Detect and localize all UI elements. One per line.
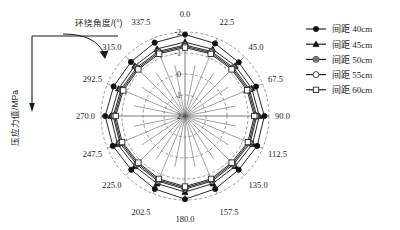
filled-circle-marker: [111, 84, 116, 89]
marker-shape: [313, 26, 318, 31]
open-square-marker: [229, 67, 234, 72]
marker-shape: [208, 176, 213, 181]
angle-tick-337.5: 337.5: [131, 17, 150, 27]
marker-shape: [236, 60, 241, 65]
radial-axis-title: 压应力值/MPa: [10, 90, 20, 146]
angle-axis-arrowhead: [100, 51, 109, 60]
marker-shape: [208, 51, 213, 56]
marker-shape: [213, 186, 218, 191]
marker-shape: [244, 88, 249, 93]
angle-tick-90.0: 90.0: [275, 111, 290, 121]
marker-shape: [103, 113, 108, 118]
open-square-marker: [182, 184, 187, 189]
marker-shape: [182, 32, 187, 37]
angle-tick-112.5: 112.5: [268, 149, 287, 159]
filled-circle-marker: [212, 41, 217, 46]
radial-tick-2: 2: [177, 112, 181, 121]
marker-shape: [121, 88, 126, 93]
filled-circle-marker: [152, 40, 157, 45]
angle-tick-22.5: 22.5: [219, 17, 234, 27]
filled-circle-marker: [103, 113, 108, 118]
legend-label-5: 间距 60cm: [332, 84, 372, 95]
open-square-marker: [208, 51, 213, 56]
angle-tick-225.0: 225.0: [102, 180, 121, 190]
legend-label-4: 间距 55cm: [332, 69, 372, 80]
marker-shape: [262, 113, 267, 118]
open-square-marker: [245, 139, 250, 144]
marker-shape: [212, 41, 217, 46]
filled-circle-marker: [313, 26, 318, 31]
marker-shape: [152, 186, 157, 191]
polar-chart-canvas: 0.022.545.067.590.0112.5135.0157.5180.02…: [0, 0, 400, 230]
open-square-marker: [252, 113, 257, 118]
open-square-marker: [313, 87, 318, 92]
marker-shape: [313, 87, 318, 92]
marker-shape: [128, 59, 133, 64]
open-square-marker: [229, 160, 234, 165]
radial-axis-arrow: [29, 103, 35, 112]
filled-circle-marker: [182, 197, 187, 202]
angle-axis-title: 环绕角度/(°): [75, 18, 123, 28]
marker-shape: [182, 184, 187, 189]
filled-circle-marker: [213, 186, 218, 191]
legend-label-3: 间距 50cm: [332, 54, 372, 65]
angle-tick-67.5: 67.5: [268, 74, 283, 84]
diamond-in-circle-marker: [313, 56, 319, 62]
radial-tick-neg1: -1: [174, 49, 181, 58]
polar-chart-figure: 0.022.545.067.590.0112.5135.0157.5180.02…: [0, 0, 400, 230]
angle-tick-270.0: 270.0: [76, 111, 95, 121]
open-square-marker: [136, 160, 141, 165]
open-square-marker: [157, 51, 162, 56]
angle-tick-202.5: 202.5: [131, 207, 150, 217]
angle-tick-0.0: 0.0: [180, 9, 191, 19]
angle-tick-292.5: 292.5: [83, 74, 102, 84]
radial-tick-0: 0: [177, 70, 181, 79]
marker-shape: [313, 72, 319, 78]
open-square-marker: [208, 176, 213, 181]
open-square-marker: [113, 113, 118, 118]
open-circle-marker: [313, 72, 319, 78]
marker-shape: [253, 84, 258, 89]
legend-item-2[interactable]: 间距 45cm: [306, 39, 372, 50]
marker-shape: [182, 45, 187, 50]
filled-circle-marker: [182, 32, 187, 37]
legend-item-3[interactable]: 间距 50cm: [306, 54, 372, 65]
filled-circle-marker: [262, 113, 267, 118]
legend-item-5[interactable]: 间距 60cm: [306, 84, 372, 95]
legend-label-1: 间距 40cm: [332, 23, 372, 34]
legend-item-4[interactable]: 间距 55cm: [306, 69, 372, 80]
axis-annotations: 压应力值/MPa环绕角度/(°): [10, 18, 123, 146]
radial-tick-1: 1: [177, 91, 181, 100]
legend: 间距 40cm间距 45cm间距 50cm间距 55cm间距 60cm: [306, 23, 372, 95]
marker-shape: [136, 67, 141, 72]
open-square-marker: [182, 45, 187, 50]
marker-shape: [182, 197, 187, 202]
open-square-marker: [156, 176, 161, 181]
marker-shape: [229, 160, 234, 165]
marker-shape: [119, 139, 124, 144]
marker-shape: [111, 84, 116, 89]
marker-shape: [229, 67, 234, 72]
angle-tick-135.0: 135.0: [249, 180, 268, 190]
radial-tick-labels: -2-1012: [174, 28, 181, 121]
marker-shape: [113, 113, 118, 118]
angle-tick-180.0: 180.0: [175, 214, 194, 224]
open-square-marker: [119, 139, 124, 144]
marker-shape: [136, 160, 141, 165]
open-square-marker: [121, 88, 126, 93]
marker-shape: [156, 176, 161, 181]
filled-circle-marker: [128, 59, 133, 64]
marker-shape: [252, 113, 257, 118]
filled-circle-marker: [236, 60, 241, 65]
legend-item-1[interactable]: 间距 40cm: [306, 23, 372, 34]
angle-axis-curve: [63, 34, 104, 54]
marker-shape: [245, 139, 250, 144]
filled-circle-marker: [152, 186, 157, 191]
radial-tick-neg2: -2: [174, 28, 181, 37]
filled-circle-marker: [253, 84, 258, 89]
polar-spokes: [101, 32, 269, 200]
angle-tick-157.5: 157.5: [219, 207, 238, 217]
marker-shape: [157, 51, 162, 56]
marker-shape: [152, 40, 157, 45]
open-square-marker: [244, 88, 249, 93]
